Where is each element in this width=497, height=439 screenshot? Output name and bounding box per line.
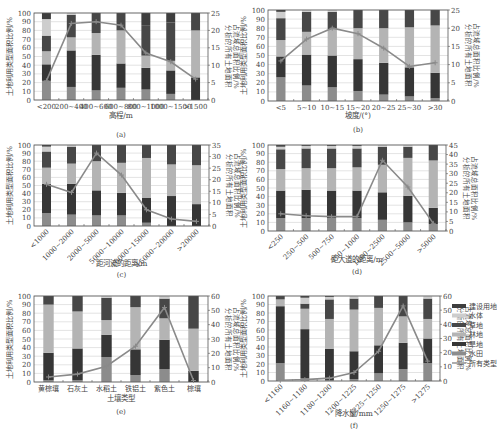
legend-label: 林地 — [469, 330, 483, 339]
y2-axis-label: 分析的所有土地面积 — [464, 24, 473, 87]
bar-segment-forest — [67, 37, 76, 50]
y2-tick-label: 30 — [212, 153, 221, 161]
bar-segment-paddy — [423, 363, 432, 381]
y2-tick-label: 30 — [211, 336, 220, 344]
y-axis-label: 土地利用类型面积比例/% — [239, 148, 248, 227]
x-tick-label: <1000 — [29, 228, 51, 250]
y2-tick-label: 20 — [212, 176, 221, 184]
bar-segment-grass — [188, 296, 198, 329]
chart-panel-a: 01020304050607080901000510152025<200200~… — [5, 10, 241, 140]
y-tick-label: 30 — [22, 70, 31, 78]
y-tick-label: 50 — [256, 185, 265, 193]
bar-segment-forest — [92, 33, 101, 55]
y-tick-label: 100 — [252, 142, 265, 150]
bar-segment-dryland — [92, 190, 101, 215]
bar-segment-dryland — [166, 70, 175, 93]
y-tick-label: 60 — [22, 174, 31, 182]
y-tick-label: 10 — [22, 88, 31, 96]
y2-tick-label: 30 — [449, 170, 458, 178]
y-tick-label: 60 — [22, 44, 31, 52]
y-tick-label: 0 — [261, 98, 265, 106]
bar-segment-forest — [405, 27, 414, 67]
x-tick-label: 棕壤 — [187, 384, 201, 393]
panel-caption: (e) — [116, 408, 126, 416]
bar-segment-grass — [352, 148, 361, 167]
charts-canvas: 01020304050607080901000510152025<200200~… — [0, 0, 497, 439]
bar-segment-paddy — [92, 90, 101, 100]
bar-segment-grass — [429, 145, 438, 160]
y-tick-label: 20 — [22, 79, 31, 87]
panel-caption: (c) — [117, 271, 127, 279]
bar-segment-grass — [374, 296, 383, 308]
bar-segment-forest — [350, 310, 359, 352]
y-tick-label: 50 — [256, 52, 265, 60]
bar-segment-grass — [117, 145, 126, 163]
bar-segment-dryland — [92, 55, 101, 91]
panel-caption: (a) — [116, 131, 126, 139]
y2-axis-label: 分析的所有土地面积 — [224, 308, 233, 371]
bar-segment-forest — [300, 309, 309, 329]
bar-segment-paddy — [141, 90, 150, 100]
x-tick-label: 铁铝土 — [125, 384, 146, 393]
y2-axis-label: 分析的所有土地面积 — [225, 154, 234, 217]
bar-segment-forest — [328, 29, 337, 55]
bar-segment-grass — [403, 147, 412, 158]
bar-segment-built — [42, 13, 51, 19]
y-axis-label: 土地利用类型面积比例/% — [5, 299, 14, 378]
y2-tick-label: 60 — [443, 293, 452, 301]
y2-tick-label: 10 — [451, 61, 460, 69]
x-tick-label: 紫色土 — [154, 384, 175, 393]
bar-segment-water — [42, 19, 51, 36]
bar-segment-forest — [167, 164, 176, 196]
bar-segment-dryland — [378, 192, 387, 220]
y-tick-label: 60 — [22, 327, 31, 335]
y-tick-label: 80 — [22, 27, 31, 35]
y-tick-label: 80 — [256, 310, 265, 318]
y-tick-label: 20 — [22, 206, 31, 214]
y2-tick-label: 15 — [212, 188, 221, 196]
bar-segment-dryland — [67, 50, 76, 87]
y-tick-label: 30 — [22, 353, 31, 361]
y2-tick-label: 10 — [211, 62, 220, 70]
legend-swatch-dryland — [452, 342, 466, 346]
bar-segment-paddy — [130, 375, 140, 382]
bar-segment-forest — [325, 319, 334, 349]
bar-segment-paddy — [42, 213, 51, 226]
y2-axis-label: 占流域总面积比例/% — [472, 23, 481, 87]
legend-label: 旱地 — [469, 340, 483, 349]
bar-segment-forest — [101, 320, 111, 335]
y2-tick-label: 25 — [212, 165, 221, 173]
bar-segment-dryland — [352, 191, 361, 219]
bar-segment-forest — [130, 307, 140, 349]
bar-segment-paddy — [42, 81, 51, 100]
bar-segment-dryland — [300, 329, 309, 378]
y-tick-label: 0 — [27, 223, 31, 231]
bar-segment-dryland — [141, 68, 150, 90]
y-tick-label: 40 — [22, 190, 31, 198]
y-axis-label: 土地利用类型面积比例/% — [239, 299, 248, 378]
bar-segment-paddy — [353, 91, 362, 101]
bar-segment-paddy — [403, 222, 412, 231]
x-tick-label: 20~25 — [372, 104, 396, 112]
x-tick-label: 石灰土 — [67, 384, 88, 393]
bar-segment-water — [352, 146, 361, 149]
legend-swatch-built — [452, 304, 466, 308]
bar-segment-forest — [352, 167, 361, 190]
chart-panel-b: 01020304050607080901000510152025<55~1010… — [239, 7, 481, 135]
bar-segment-paddy — [327, 218, 336, 231]
y2-axis-label: 占流域总面积比例/% — [470, 156, 479, 220]
y2-tick-label: 30 — [443, 335, 452, 343]
y-tick-label: 80 — [22, 310, 31, 318]
bar-segment-grass — [101, 298, 111, 320]
bar-segment-forest — [72, 311, 82, 348]
bar-segment-paddy — [405, 96, 414, 101]
bar-segment-paddy — [92, 215, 101, 226]
bar-segment-dryland — [159, 340, 169, 369]
y2-tick-label: 35 — [449, 161, 458, 169]
y-tick-label: 30 — [256, 202, 265, 210]
x-tick-label: >1500 — [184, 103, 208, 111]
bar-segment-paddy — [276, 218, 285, 231]
bar-segment-water — [300, 298, 309, 304]
y2-tick-label: 35 — [212, 142, 221, 150]
bar-segment-dryland — [117, 193, 126, 216]
